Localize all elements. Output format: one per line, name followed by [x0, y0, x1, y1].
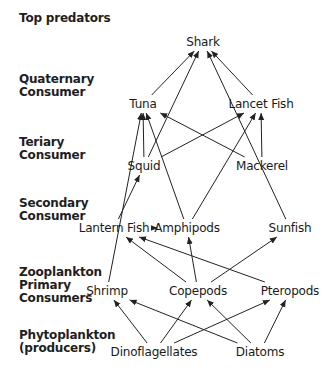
node-tuna: Tuna	[129, 97, 156, 111]
arrow-pteropods-to-lantern_fish	[139, 237, 265, 282]
level-label-secondary-consumer: Secondary Consumer	[19, 197, 88, 223]
level-label-top-predators: Top predators	[19, 12, 110, 25]
node-sunfish: Sunfish	[269, 221, 312, 235]
marine-food-web-diagram: Top predators Quaternary Consumer Teriar…	[0, 0, 331, 377]
node-diatoms: Diatoms	[236, 345, 285, 359]
arrow-copepods-to-amphipods	[189, 237, 197, 282]
arrow-copepods-to-sunfish	[211, 237, 277, 282]
node-squid: Squid	[128, 159, 161, 173]
arrow-diatoms-to-pteropods	[264, 300, 285, 343]
node-mackerel: Mackerel	[236, 159, 288, 173]
arrow-lantern_fish-to-squid	[118, 175, 139, 219]
node-pteropods: Pteropods	[261, 284, 319, 298]
food-web-arrows	[0, 0, 331, 377]
arrow-sunfish-to-shark	[207, 51, 286, 219]
node-amphipods: Amphipods	[154, 221, 219, 235]
node-dinoflagellates: Dinoflagellates	[111, 345, 198, 359]
node-lancet-fish: Lancet Fish	[228, 97, 293, 111]
arrow-shrimp-to-tuna	[109, 113, 142, 282]
arrow-diatoms-to-copepods	[207, 300, 251, 343]
node-copepods: Copepods	[169, 284, 227, 298]
level-label-line: Top predators	[19, 12, 110, 25]
level-label-line: Consumer	[19, 86, 94, 99]
arrow-mackerel-to-lancet_fish	[261, 113, 262, 157]
node-lantern-fish: Lantern Fish	[79, 221, 150, 235]
level-label-phytoplankton-producers: Phytoplankton (producers)	[19, 329, 115, 355]
node-shrimp: Shrimp	[86, 284, 128, 298]
arrow-squid-to-tuna	[143, 113, 144, 157]
level-label-line: Consumer	[19, 149, 85, 162]
arrow-dinoflagellates-to-shrimp	[114, 300, 147, 343]
node-shark: Shark	[186, 35, 219, 49]
arrow-copepods-to-lantern_fish	[126, 237, 186, 282]
level-label-tertiary-consumer: Teriary Consumer	[19, 136, 85, 162]
level-label-quaternary-consumer: Quaternary Consumer	[19, 73, 94, 99]
level-label-line: (producers)	[19, 342, 115, 355]
arrow-dinoflagellates-to-copepods	[161, 300, 192, 343]
